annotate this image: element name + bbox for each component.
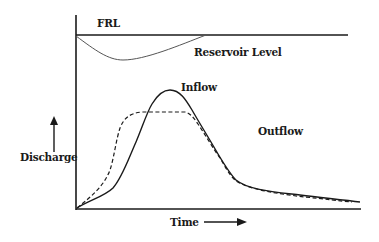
discharge-axis-label: Discharge	[20, 151, 78, 163]
discharge-arrow-up-icon	[50, 116, 58, 125]
reservoir-level-curve	[76, 35, 206, 60]
reservoir-level-label: Reservoir Level	[194, 46, 282, 58]
outflow-label: Outflow	[258, 125, 303, 137]
frl-label: FRL	[97, 17, 120, 29]
reservoir-hydrograph-diagram: FRL Reservoir Level Inflow Outflow Disch…	[0, 0, 379, 242]
time-arrow-right-icon	[237, 218, 247, 226]
outflow-curve	[77, 112, 352, 208]
inflow-label: Inflow	[181, 81, 217, 93]
inflow-curve	[77, 90, 360, 208]
time-axis-label: Time	[170, 216, 199, 228]
hydrograph-canvas	[0, 0, 379, 242]
